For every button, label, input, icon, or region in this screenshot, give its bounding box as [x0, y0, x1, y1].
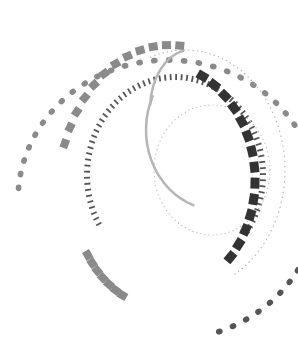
dark-block-ring-right-mark	[223, 250, 237, 264]
thin-dash-ring-inner-mark	[175, 74, 177, 80]
fine-dot-ring-2-mark	[263, 243, 265, 245]
thin-dash-ring-inner-mark	[147, 78, 150, 84]
thin-dash-ring-inner-mark	[89, 206, 95, 210]
fine-dot-ring-mark	[232, 230, 234, 232]
fine-dot-ring-mark	[208, 234, 209, 235]
fine-dot-ring-2-mark	[279, 206, 281, 208]
thin-dash-ring-inner	[84, 74, 266, 234]
fine-dot-ring-mark	[196, 232, 198, 234]
dark-block-ring-right-mark	[250, 178, 259, 189]
fine-dot-ring-2-mark	[241, 267, 243, 269]
fine-dot-ring-2-mark	[266, 238, 268, 240]
fine-dot-ring-2-mark	[265, 98, 267, 100]
outer-dot-ring-mark	[136, 59, 144, 66]
fine-dot-ring-mark	[266, 147, 268, 149]
fine-dot-ring-2-mark	[272, 111, 274, 113]
thick-dash-ring-left-mark	[79, 92, 91, 104]
outer-dot-ring-mark	[290, 120, 298, 129]
fine-dot-ring-2-mark	[238, 270, 240, 272]
fine-dot-ring-mark	[260, 134, 262, 136]
fine-dot-ring-2-mark	[237, 67, 239, 69]
thin-dash-ring-inner-mark	[86, 152, 92, 155]
fine-dot-ring-2-mark	[281, 140, 283, 142]
outer-dot-ring-mark	[68, 87, 77, 96]
fine-dot-ring-2-mark	[270, 230, 272, 232]
fine-dot-ring-2-mark	[234, 273, 236, 275]
fine-dot-ring-mark	[163, 206, 165, 208]
thin-dash-ring-inner-mark	[84, 183, 90, 185]
fine-dot-ring-mark	[262, 200, 264, 202]
fine-dot-ring-mark	[264, 196, 266, 198]
thin-dash-ring-inner-mark	[254, 137, 260, 141]
fine-dot-ring-2-mark	[225, 60, 227, 62]
fine-dot-ring-mark	[228, 231, 230, 233]
thin-dash-ring-inner-mark	[164, 75, 166, 81]
fine-dot-ring-mark	[159, 198, 161, 200]
fine-dot-ring-2-mark	[280, 135, 282, 137]
thick-dash-ring-left	[59, 41, 184, 149]
fine-dot-ring-mark	[161, 136, 163, 138]
outer-dot-ring-mark	[223, 67, 232, 75]
thin-dash-ring-inner-mark	[102, 113, 108, 118]
fine-dot-ring-mark	[171, 216, 173, 218]
outer-dot-ring-mark	[294, 266, 298, 275]
dark-block-ring-right-mark	[207, 78, 221, 92]
fine-dot-ring-mark	[267, 151, 269, 153]
fine-dot-ring-2-mark	[284, 161, 285, 163]
fine-dot-ring-mark	[185, 111, 187, 113]
fine-dot-ring-2-mark	[205, 52, 207, 54]
thin-dash-ring-inner-mark	[158, 75, 161, 81]
outer-dot-ring-mark	[285, 277, 294, 286]
fine-dot-ring-2-mark	[282, 196, 284, 198]
dark-block-ring-right-mark	[246, 145, 257, 158]
fine-dot-ring-2-mark	[248, 261, 250, 263]
fine-dot-ring-mark	[224, 233, 226, 234]
outer-dot-ring-mark	[272, 98, 281, 107]
fine-dot-ring-mark	[159, 140, 161, 142]
fine-dot-ring-2-mark	[284, 171, 285, 173]
thin-dash-ring-inner-mark	[127, 88, 132, 94]
fine-dot-ring-mark	[166, 209, 168, 211]
outer-dot-ring-mark	[265, 298, 274, 307]
fine-dot-ring-2-mark	[244, 73, 246, 75]
fine-dot-ring-mark	[220, 105, 222, 106]
fine-dot-ring-2-mark	[257, 250, 259, 252]
fine-dot-ring-mark	[154, 181, 155, 183]
fine-dot-ring-mark	[220, 233, 222, 234]
fine-dot-ring-mark	[252, 124, 254, 126]
fine-dot-ring-2-mark	[282, 145, 284, 147]
thin-dash-ring-inner-mark	[260, 167, 266, 169]
thin-dash-ring-inner-mark	[259, 185, 265, 187]
fine-dot-ring-2-mark	[284, 181, 286, 183]
thin-dash-ring-inner-mark	[96, 222, 102, 227]
fine-dot-ring-2-mark	[279, 130, 281, 132]
fine-dot-ring-2-mark	[282, 191, 284, 193]
fine-dot-ring-mark	[212, 234, 213, 235]
concentric-arc-group	[15, 41, 298, 336]
thin-dash-ring-inner-mark	[84, 171, 90, 173]
fine-dot-ring-mark	[161, 202, 163, 204]
thin-dash-ring-inner-mark	[240, 110, 246, 115]
thick-dash-ring-left-mark	[175, 41, 185, 50]
outer-dot-ring-mark	[180, 58, 187, 64]
fine-dot-ring-2-mark	[280, 201, 282, 203]
fine-dot-ring-mark	[168, 125, 170, 127]
fine-dot-ring-mark	[166, 129, 168, 131]
fine-dot-ring-2-mark	[209, 53, 211, 55]
fine-dot-ring-2-mark	[250, 79, 252, 81]
outer-dot-ring-mark	[209, 63, 217, 71]
fine-dot-ring-mark	[269, 169, 270, 170]
thick-dash-ring-low	[82, 249, 128, 301]
thin-dash-ring-inner-mark	[249, 125, 255, 129]
fine-dot-ring-mark	[158, 194, 160, 196]
fine-dot-ring-2-mark	[276, 216, 278, 218]
fine-dot-ring-mark	[174, 219, 176, 221]
outer-dot-ring-mark	[17, 170, 24, 178]
thin-dash-ring-inner-mark	[85, 188, 91, 191]
thick-dash-ring-left-mark	[64, 122, 75, 134]
fine-dot-ring-mark	[177, 222, 179, 224]
fine-dot-ring-2-mark	[267, 103, 269, 105]
thin-dash-ring-inner-mark	[99, 118, 105, 123]
outer-dot-ring-mark	[57, 97, 66, 106]
fine-dot-ring-2-mark	[158, 53, 160, 55]
